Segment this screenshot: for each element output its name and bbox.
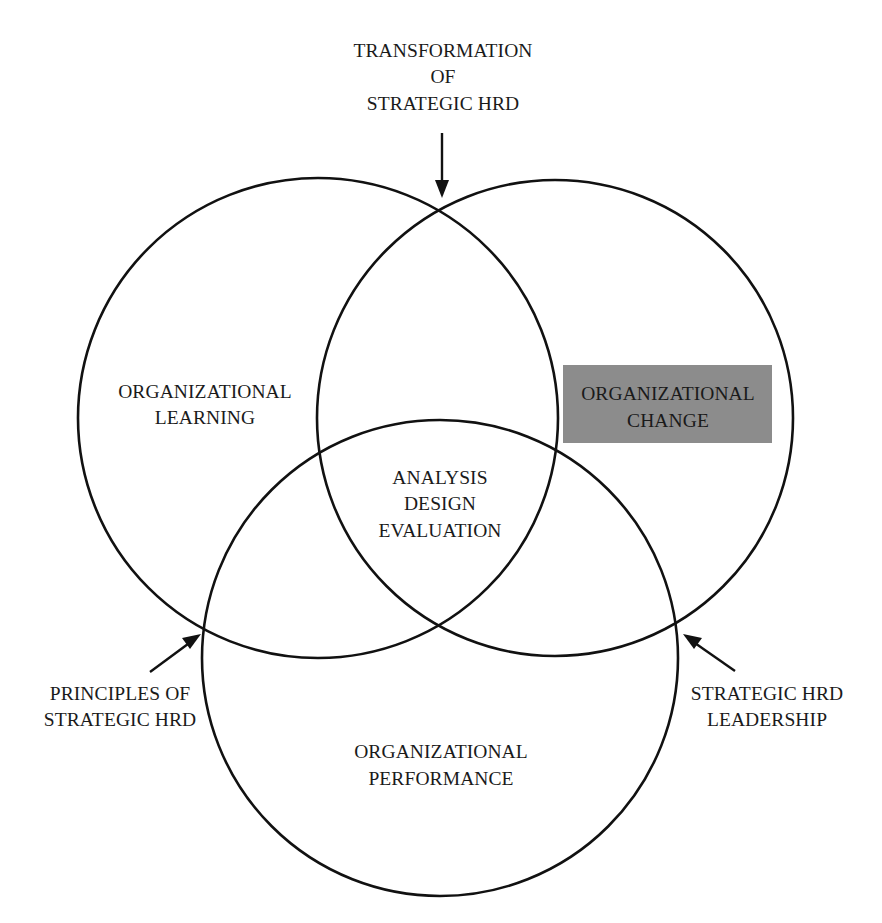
performance-line-2: PERFORMANCE	[368, 768, 513, 789]
annotation-transformation: TRANSFORMATION OF STRATEGIC HRD	[353, 40, 532, 114]
venn-diagram: TRANSFORMATION OF STRATEGIC HRD ORGANIZA…	[0, 0, 882, 923]
change-line-2: CHANGE	[627, 410, 709, 431]
circle-organizational-performance	[202, 420, 678, 896]
annotation-leadership: STRATEGIC HRD LEADERSHIP	[691, 683, 843, 730]
annotation-top-line-2: OF	[430, 66, 455, 87]
performance-line-1: ORGANIZATIONAL	[354, 741, 528, 762]
center-line-1: ANALYSIS	[392, 467, 487, 488]
annotation-top-line-3: STRATEGIC HRD	[367, 93, 519, 114]
arrow-up-left-icon	[683, 634, 735, 671]
label-organizational-learning: ORGANIZATIONAL LEARNING	[118, 381, 292, 428]
center-line-2: DESIGN	[404, 493, 476, 514]
annotation-top-line-1: TRANSFORMATION	[353, 40, 532, 61]
change-line-1: ORGANIZATIONAL	[581, 383, 755, 404]
arrow-down-icon	[435, 133, 449, 198]
annotation-left-line-1: PRINCIPLES OF	[50, 683, 191, 704]
center-line-3: EVALUATION	[378, 520, 501, 541]
arrow-up-right-icon	[150, 634, 201, 672]
annotation-principles: PRINCIPLES OF STRATEGIC HRD	[44, 683, 196, 730]
label-center: ANALYSIS DESIGN EVALUATION	[378, 467, 501, 541]
annotation-left-line-2: STRATEGIC HRD	[44, 709, 196, 730]
annotation-right-line-1: STRATEGIC HRD	[691, 683, 843, 704]
label-organizational-performance: ORGANIZATIONAL PERFORMANCE	[354, 741, 528, 789]
annotation-right-line-2: LEADERSHIP	[707, 709, 827, 730]
learning-line-1: ORGANIZATIONAL	[118, 381, 292, 402]
learning-line-2: LEARNING	[155, 407, 255, 428]
change-highlight-box	[563, 365, 772, 443]
